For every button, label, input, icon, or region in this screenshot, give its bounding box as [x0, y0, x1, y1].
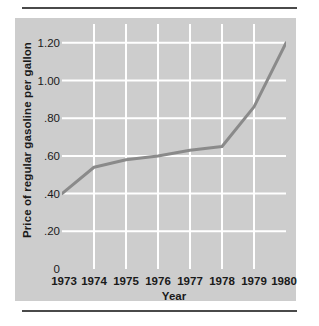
plot-area [62, 24, 286, 269]
y-tick-label: 1.00 [38, 75, 60, 87]
x-tick-label: 1975 [113, 275, 139, 287]
y-tick-label: .60 [44, 150, 60, 162]
x-tick-label: 1977 [177, 275, 203, 287]
bottom-divider-rule [22, 310, 297, 312]
y-tick-label: .80 [44, 112, 60, 124]
x-axis-tick-labels: 19731974197519761977197819791980 [62, 275, 286, 291]
x-tick-label: 1979 [241, 275, 267, 287]
top-divider-rule [22, 7, 297, 9]
x-axis-title: Year [62, 290, 286, 302]
horizontal-gridlines [62, 43, 286, 231]
y-axis-tick-labels: 0.20.40.60.801.001.20 [30, 24, 60, 269]
x-tick-label: 1976 [145, 275, 171, 287]
line-chart-svg [62, 24, 286, 269]
x-tick-label: 1978 [209, 275, 235, 287]
y-tick-label: .40 [44, 188, 60, 200]
figure-container: Price of regular gasoline per gallon 0.2… [0, 0, 319, 326]
x-tick-label: 1980 [271, 275, 297, 287]
y-tick-label: 1.20 [38, 37, 60, 49]
x-tick-label: 1973 [51, 275, 77, 287]
x-tick-label: 1974 [81, 275, 107, 287]
y-tick-label: .20 [44, 225, 60, 237]
y-tick-label: 0 [54, 263, 60, 275]
